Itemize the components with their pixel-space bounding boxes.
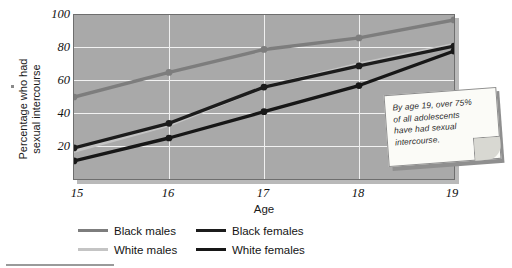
data-point-white-females-18 bbox=[356, 82, 363, 89]
y-axis-ticks: 100 80 60 40 20 bbox=[26, 0, 70, 200]
y-tick-20: 20 bbox=[32, 140, 70, 152]
callout-note: By age 19, over 75% of all adolescents h… bbox=[384, 87, 502, 167]
x-tick-17: 17 bbox=[243, 186, 283, 201]
chart-figure: Percentage who had sexual intercourse 10… bbox=[0, 0, 512, 268]
x-tick-16: 16 bbox=[148, 186, 188, 201]
legend-label-white-females: White females bbox=[232, 244, 305, 256]
data-point-black-males-19 bbox=[451, 17, 454, 24]
legend-label-white-males: White males bbox=[114, 244, 177, 256]
y-tick-60: 60 bbox=[32, 74, 70, 86]
legend-item-white-males: White males bbox=[78, 244, 196, 256]
data-point-black-females-18 bbox=[356, 63, 363, 70]
data-point-black-males-18 bbox=[356, 35, 363, 42]
y-tick-100: 100 bbox=[32, 8, 70, 20]
data-point-white-females-17 bbox=[261, 108, 268, 115]
legend-item-black-males: Black males bbox=[78, 225, 196, 237]
data-point-black-females-16 bbox=[166, 120, 173, 127]
legend-swatch-white-males bbox=[78, 248, 108, 251]
y-tick-40: 40 bbox=[32, 107, 70, 119]
page-curl-icon bbox=[473, 136, 502, 161]
x-tick-18: 18 bbox=[338, 186, 378, 201]
legend-label-black-males: Black males bbox=[114, 225, 176, 237]
legend-swatch-white-females bbox=[196, 248, 226, 251]
footer-rule bbox=[6, 264, 114, 266]
legend-label-black-females: Black females bbox=[232, 225, 304, 237]
x-tick-15: 15 bbox=[57, 186, 97, 201]
data-point-white-females-16 bbox=[166, 135, 173, 142]
x-tick-19: 19 bbox=[432, 186, 472, 201]
speck-artifact bbox=[11, 85, 14, 88]
x-axis-title: Age bbox=[73, 203, 455, 215]
chart-legend: Black males Black females White males Wh… bbox=[78, 221, 326, 259]
legend-item-white-females: White females bbox=[196, 244, 326, 256]
legend-swatch-black-females bbox=[196, 229, 226, 232]
legend-item-black-females: Black females bbox=[196, 225, 326, 237]
data-point-black-males-17 bbox=[261, 46, 268, 53]
y-tick-80: 80 bbox=[32, 41, 70, 53]
legend-swatch-black-males bbox=[78, 229, 108, 232]
data-point-black-females-17 bbox=[261, 84, 268, 91]
data-point-black-males-16 bbox=[166, 69, 173, 76]
